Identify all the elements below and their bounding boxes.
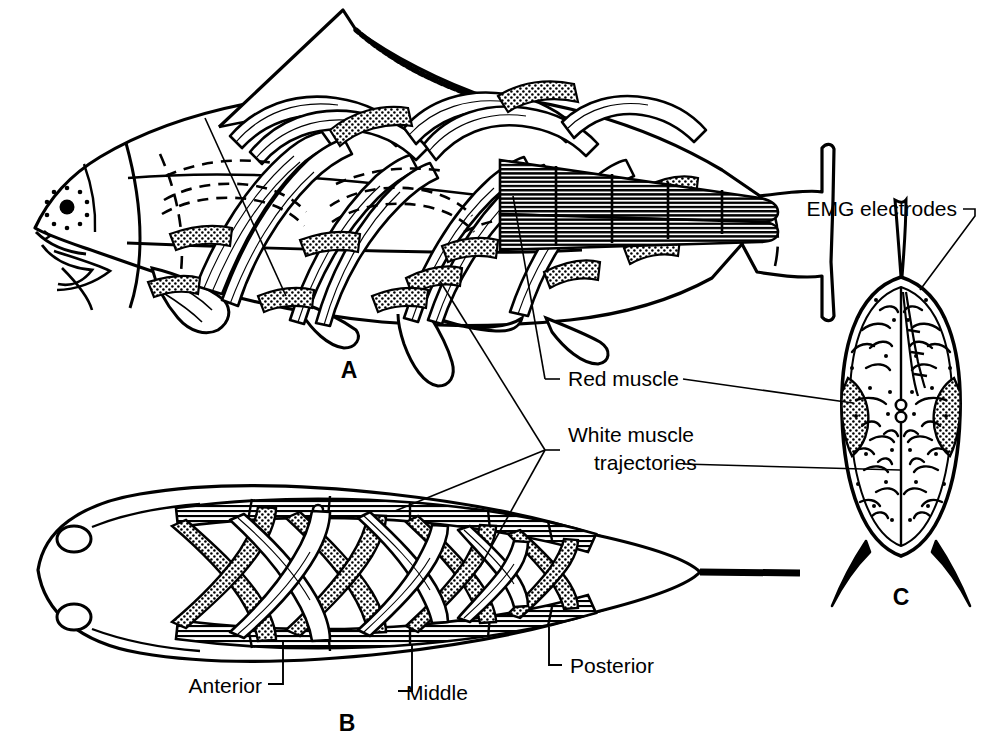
panel-label-c: C bbox=[893, 584, 910, 610]
label-emg-electrodes: EMG electrodes bbox=[806, 197, 957, 220]
dorsal-eye-right bbox=[57, 604, 91, 630]
dorsal-eye-left bbox=[57, 526, 91, 552]
label-middle: Middle bbox=[406, 681, 468, 704]
anatomy-diagram: A bbox=[0, 0, 999, 746]
label-red-muscle: Red muscle bbox=[568, 367, 679, 390]
label-anterior: Anterior bbox=[188, 674, 262, 697]
label-white-muscle-line1: White muscle bbox=[568, 423, 694, 446]
dorsal-tail-line bbox=[700, 572, 800, 573]
panel-label-a: A bbox=[341, 357, 358, 383]
label-posterior: Posterior bbox=[570, 654, 654, 677]
figure-root: A bbox=[0, 0, 999, 746]
label-white-muscle-line2: trajectories bbox=[594, 451, 697, 474]
panel-label-b: B bbox=[339, 710, 356, 736]
eye-pupil bbox=[60, 200, 75, 215]
